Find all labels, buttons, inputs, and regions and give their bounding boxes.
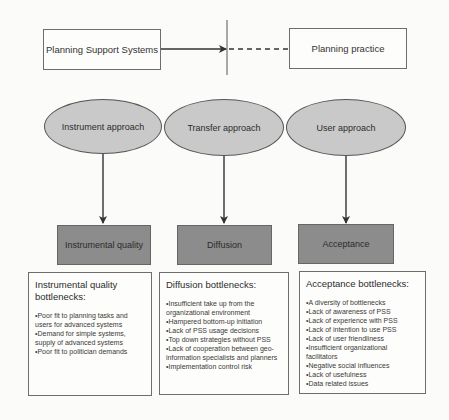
bottleneck-item: Negative social influences: [306, 361, 419, 370]
bottleneck-item: Lack of PSS usage decisions: [166, 326, 282, 335]
bottleneck-title: Instrumental quality bottlenecks:: [35, 279, 145, 303]
bottleneck-item: Lack of cooperation between geo-informat…: [166, 344, 282, 362]
bottleneck-list: Insufficient take up from the organizati…: [166, 299, 282, 371]
planning-practice-box: Planning practice: [289, 28, 407, 69]
bottleneck-list: A diversity of bottlenecks Lack of aware…: [306, 298, 419, 388]
bottleneck-list: Poor fit to planning tasks and users for…: [35, 311, 145, 356]
bottleneck-title: Acceptance bottlenecks:: [306, 278, 419, 290]
bottleneck-item: Lack of awareness of PSS: [306, 307, 419, 316]
bottleneck-item: A diversity of bottlenecks: [306, 298, 419, 307]
bottleneck-item: Lack of experience with PSS: [306, 316, 419, 325]
bottleneck-item: Hampered bottom-up initiation: [166, 317, 282, 326]
bottleneck-item: Poor fit to planning tasks and users for…: [35, 311, 145, 329]
instrumental-quality-bottlenecks-box: Instrumental quality bottlenecks: Poor f…: [28, 272, 152, 396]
bottleneck-item: Top down strategies without PSS: [166, 335, 282, 344]
bottleneck-item: Lack of user friendliness: [306, 334, 419, 343]
bottleneck-item: Demand for simple systems, supply of adv…: [35, 329, 145, 347]
bottleneck-item: Insufficient take up from the organizati…: [166, 299, 282, 317]
bottleneck-item: Lack of usefulness: [306, 370, 419, 379]
acceptance-box: Acceptance: [298, 224, 394, 264]
bottleneck-item: Poor fit to politician demands: [35, 347, 145, 356]
diffusion-bottlenecks-box: Diffusion bottlenecks: Insufficient take…: [159, 272, 289, 395]
instrumental-quality-box: Instrumental quality: [57, 225, 151, 265]
acceptance-bottlenecks-box: Acceptance bottlenecks: A diversity of b…: [299, 271, 426, 394]
bottleneck-item: Insufficient organizational facilitators: [306, 343, 419, 361]
instrument-approach-ellipse: Instrument approach: [44, 99, 162, 154]
diffusion-box: Diffusion: [177, 225, 272, 265]
bottleneck-item: Data related issues: [306, 379, 419, 388]
bottleneck-title: Diffusion bottlenecks:: [166, 279, 282, 291]
bottleneck-item: Lack of intention to use PSS: [306, 325, 419, 334]
user-approach-ellipse: User approach: [286, 99, 406, 156]
planning-support-systems-box: Planning Support Systems: [43, 29, 161, 70]
transfer-approach-ellipse: Transfer approach: [164, 99, 284, 156]
bottleneck-item: Implementation control risk: [166, 362, 282, 371]
